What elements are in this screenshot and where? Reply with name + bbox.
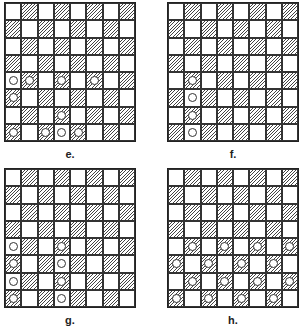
board-square: [184, 273, 200, 290]
board-square: [86, 221, 102, 238]
circle-piece-icon: [220, 277, 229, 286]
board-square: [233, 55, 249, 72]
board-square: [5, 204, 21, 221]
board-square: [119, 107, 135, 124]
circle-piece-icon: [57, 128, 66, 137]
board-square: [38, 255, 54, 272]
board-square: [21, 124, 37, 141]
board-square: [21, 169, 37, 186]
board-square: [38, 221, 54, 238]
board-square: [266, 273, 282, 290]
board-square: [86, 3, 102, 20]
board-square: [21, 3, 37, 20]
board-square: [168, 124, 184, 141]
board-square: [5, 107, 21, 124]
circle-piece-icon: [25, 76, 34, 85]
board-square: [249, 204, 265, 221]
board-square: [38, 238, 54, 255]
board-square: [70, 55, 86, 72]
board-square: [86, 255, 102, 272]
board-square: [282, 255, 298, 272]
board-square: [21, 238, 37, 255]
board-square: [5, 290, 21, 307]
board-square: [86, 20, 102, 37]
board-square: [282, 38, 298, 55]
board-square: [103, 290, 119, 307]
circle-piece-icon: [285, 277, 294, 286]
board-square: [38, 186, 54, 203]
board-square: [54, 124, 70, 141]
board-square: [70, 273, 86, 290]
board-square: [21, 255, 37, 272]
board-square: [233, 89, 249, 106]
board-square: [249, 89, 265, 106]
board-square: [249, 55, 265, 72]
board-square: [184, 124, 200, 141]
board-square: [217, 221, 233, 238]
board-square: [103, 238, 119, 255]
board-square: [21, 204, 37, 221]
board-square: [70, 290, 86, 307]
board-square: [54, 3, 70, 20]
board-square: [86, 38, 102, 55]
board-square: [119, 169, 135, 186]
board-square: [54, 169, 70, 186]
board-square: [217, 55, 233, 72]
board-square: [249, 221, 265, 238]
board-square: [233, 204, 249, 221]
circle-piece-icon: [188, 111, 197, 120]
board-square: [5, 20, 21, 37]
board-square: [70, 72, 86, 89]
circle-piece-icon: [285, 242, 294, 251]
board-square: [201, 72, 217, 89]
board-square: [233, 273, 249, 290]
board-square: [70, 255, 86, 272]
board-square: [86, 169, 102, 186]
board-square: [54, 55, 70, 72]
board-square: [201, 20, 217, 37]
board-square: [21, 273, 37, 290]
board-square: [266, 107, 282, 124]
board-square: [201, 238, 217, 255]
board-square: [103, 20, 119, 37]
board-square: [266, 204, 282, 221]
board-square: [184, 89, 200, 106]
board-square: [86, 124, 102, 141]
board-square: [217, 290, 233, 307]
circle-piece-icon: [188, 277, 197, 286]
board-square: [38, 3, 54, 20]
board-square: [103, 107, 119, 124]
board-square: [249, 290, 265, 307]
board-square: [38, 124, 54, 141]
board-square: [233, 3, 249, 20]
board-square: [86, 186, 102, 203]
board-square: [217, 124, 233, 141]
board-square: [168, 38, 184, 55]
board-square: [266, 38, 282, 55]
board-square: [184, 186, 200, 203]
board-square: [38, 204, 54, 221]
board-square: [86, 273, 102, 290]
circle-piece-icon: [9, 242, 18, 251]
board-square: [103, 273, 119, 290]
board-square: [282, 89, 298, 106]
board-h: [167, 168, 299, 308]
board-square: [217, 38, 233, 55]
board-square: [168, 290, 184, 307]
board-square: [184, 238, 200, 255]
board-square: [86, 55, 102, 72]
board-square: [217, 72, 233, 89]
board-square: [266, 255, 282, 272]
board-square: [70, 38, 86, 55]
board-square: [282, 124, 298, 141]
board-square: [282, 186, 298, 203]
board-square: [103, 3, 119, 20]
board-square: [184, 107, 200, 124]
circle-piece-icon: [204, 294, 213, 303]
board-square: [168, 273, 184, 290]
board-square: [54, 89, 70, 106]
board-square: [217, 255, 233, 272]
circle-piece-icon: [57, 277, 66, 286]
board-square: [266, 20, 282, 37]
board-square: [266, 186, 282, 203]
